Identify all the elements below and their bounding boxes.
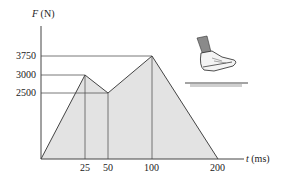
y-axis-var: F <box>32 8 38 19</box>
xtick-25: 25 <box>80 163 90 173</box>
x-axis-var: t <box>246 153 249 164</box>
ytick-3750: 3750 <box>16 51 36 61</box>
xtick-200: 200 <box>210 163 225 173</box>
y-axis-label: F (N) <box>32 9 55 19</box>
x-axis-label: t (ms) <box>246 154 270 164</box>
foot-icon <box>185 36 248 87</box>
force-time-chart <box>0 0 287 179</box>
xtick-100: 100 <box>144 163 159 173</box>
y-axis-unit: (N) <box>41 8 55 19</box>
ytick-3000: 3000 <box>16 70 36 80</box>
xtick-50: 50 <box>103 163 113 173</box>
ytick-2500: 2500 <box>16 88 36 98</box>
x-axis-unit: (ms) <box>251 153 269 164</box>
